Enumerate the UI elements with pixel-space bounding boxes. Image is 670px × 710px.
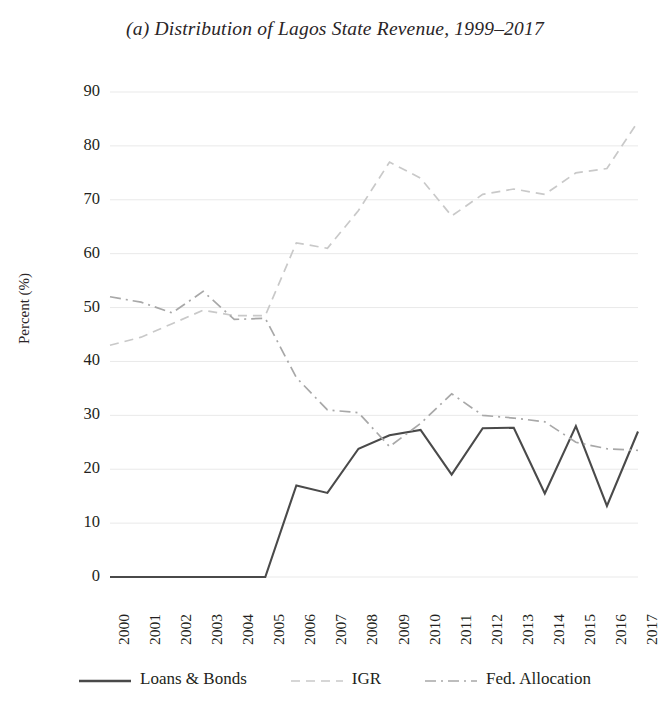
x-tick-label: 2001 [147, 585, 163, 645]
x-tick-label: 2007 [333, 585, 349, 645]
plot-area [110, 92, 638, 577]
y-tick-label: 10 [56, 514, 100, 531]
chart-title: (a) Distribution of Lagos State Revenue,… [0, 18, 670, 40]
series-line [110, 122, 638, 346]
y-tick-label: 0 [56, 568, 100, 585]
legend-label: Loans & Bonds [140, 669, 247, 689]
y-tick-label: 50 [56, 299, 100, 316]
figure-panel: (a) Distribution of Lagos State Revenue,… [0, 0, 670, 710]
x-tick-label: 2002 [178, 585, 194, 645]
y-tick-label: 60 [56, 245, 100, 262]
x-axis-ticks: 2000200120022003200420052006200720082009… [110, 583, 638, 653]
chart-legend: Loans & BondsIGRFed. Allocation [0, 662, 670, 696]
y-tick-label: 20 [56, 460, 100, 477]
chart-canvas [110, 92, 638, 577]
x-tick-label: 2017 [644, 585, 660, 645]
y-tick-label: 90 [56, 83, 100, 100]
x-tick-label: 2015 [582, 585, 598, 645]
x-tick-label: 2004 [240, 585, 256, 645]
y-axis-ticks: 0102030405060708090 [42, 92, 100, 577]
x-tick-label: 2009 [396, 585, 412, 645]
x-tick-label: 2014 [551, 585, 567, 645]
legend-item[interactable]: IGR [291, 669, 381, 689]
x-tick-label: 2008 [364, 585, 380, 645]
y-tick-label: 80 [56, 137, 100, 154]
legend-item[interactable]: Loans & Bonds [79, 669, 247, 689]
series-line [110, 426, 638, 577]
y-axis-title: Percent (%) [16, 239, 33, 379]
legend-item[interactable]: Fed. Allocation [425, 669, 591, 689]
legend-label: Fed. Allocation [486, 669, 591, 689]
y-tick-label: 30 [56, 406, 100, 423]
series-line [110, 291, 638, 450]
x-tick-label: 2012 [489, 585, 505, 645]
legend-line-swatch [291, 673, 343, 685]
legend-line-swatch [425, 673, 477, 685]
y-tick-label: 40 [56, 352, 100, 369]
x-tick-label: 2016 [613, 585, 629, 645]
x-tick-label: 2013 [520, 585, 536, 645]
x-tick-label: 2005 [271, 585, 287, 645]
gridlines [110, 92, 638, 577]
x-tick-label: 2010 [427, 585, 443, 645]
x-tick-label: 2006 [302, 585, 318, 645]
legend-label: IGR [352, 669, 381, 689]
x-tick-label: 2000 [116, 585, 132, 645]
x-tick-label: 2011 [458, 585, 474, 645]
y-tick-label: 70 [56, 191, 100, 208]
legend-line-swatch [79, 673, 131, 685]
series-lines [110, 122, 638, 577]
x-tick-label: 2003 [209, 585, 225, 645]
